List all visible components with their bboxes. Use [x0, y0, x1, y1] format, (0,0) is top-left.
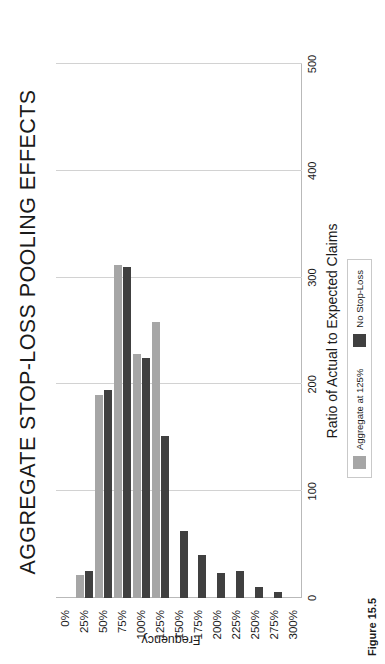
y-tick-label: 0 — [306, 595, 318, 601]
bar-group — [151, 64, 170, 598]
y-axis-tick-labels: 0100200300400500 — [306, 64, 322, 598]
x-tick-label: 75% — [116, 610, 128, 633]
series-swatch-gray — [353, 456, 366, 469]
legend-label: No Stop-Loss — [354, 270, 365, 328]
bar-group — [113, 64, 132, 598]
bar-no-stop-loss — [255, 587, 263, 598]
bar-aggregate — [114, 265, 122, 598]
bar-group — [264, 64, 283, 598]
bar-group — [226, 64, 245, 598]
figure-page: AGGREGATE STOP-LOSS POOLING EFFECTS 0100… — [0, 0, 385, 664]
x-tick-label: 0% — [59, 610, 71, 627]
chart-legend: Aggregate at 125%No Stop-Loss — [347, 259, 372, 478]
x-axis-title: Ratio of Actual to Expected Claims — [324, 64, 340, 598]
chart-title: AGGREGATE STOP-LOSS POOLING EFFECTS — [16, 0, 41, 664]
bar-no-stop-loss — [85, 571, 93, 598]
bar-group — [207, 64, 226, 598]
series-swatch-dark — [353, 334, 366, 347]
bar-group — [75, 64, 94, 598]
bar-group — [56, 64, 75, 598]
bar-no-stop-loss — [123, 267, 131, 598]
bar-no-stop-loss — [161, 436, 169, 598]
legend-label: Aggregate at 125% — [354, 369, 365, 450]
chart-figure: AGGREGATE STOP-LOSS POOLING EFFECTS 0100… — [0, 0, 385, 664]
rotated-figure-canvas: AGGREGATE STOP-LOSS POOLING EFFECTS 0100… — [0, 0, 385, 664]
legend-item: No Stop-Loss — [353, 270, 366, 347]
y-tick-label: 200 — [306, 375, 318, 393]
y-tick-label: 300 — [306, 268, 318, 286]
bar-group — [245, 64, 264, 598]
bar-aggregate — [95, 395, 103, 598]
bar-group — [188, 64, 207, 598]
bar-group — [94, 64, 113, 598]
bar-no-stop-loss — [236, 571, 244, 598]
bar-no-stop-loss — [142, 358, 150, 598]
bar-no-stop-loss — [180, 531, 188, 598]
y-tick-label: 500 — [306, 55, 318, 73]
bar-no-stop-loss — [274, 592, 282, 598]
bar-group — [283, 64, 302, 598]
y-tick-label: 400 — [306, 162, 318, 180]
bar-group — [132, 64, 151, 598]
bar-no-stop-loss — [198, 555, 206, 598]
y-axis-title: Frequency — [101, 633, 241, 647]
figure-caption: Figure 15.5 — [366, 598, 378, 656]
x-tick-label: 300% — [287, 610, 299, 639]
bar-group — [170, 64, 189, 598]
bar-aggregate — [152, 322, 160, 598]
bar-no-stop-loss — [104, 390, 112, 598]
x-tick-label: 250% — [249, 610, 261, 639]
plot-area — [56, 64, 302, 598]
x-tick-label: 50% — [97, 610, 109, 633]
x-tick-label: 25% — [78, 610, 90, 633]
bar-groups — [56, 64, 302, 598]
bar-aggregate — [76, 575, 84, 598]
bar-no-stop-loss — [217, 573, 225, 598]
bar-aggregate — [133, 355, 141, 599]
x-tick-label: 275% — [268, 610, 280, 639]
y-tick-label: 100 — [306, 482, 318, 500]
legend-item: Aggregate at 125% — [353, 369, 366, 469]
